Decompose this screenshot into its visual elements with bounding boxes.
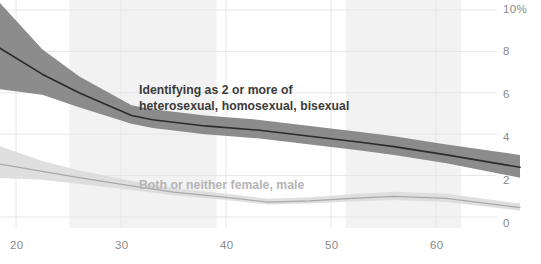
y-tick-label-8: 8 xyxy=(503,45,510,57)
series-annotation-primary: Identifying as 2 or more of heterosexual… xyxy=(139,83,349,114)
y-tick-label-6: 6 xyxy=(503,88,510,100)
series-annotation-secondary: Both or neither female, male xyxy=(139,178,304,194)
chart-plot-svg xyxy=(0,0,541,264)
y-tick-label-0: 0 xyxy=(503,217,510,229)
y-tick-label-10: 10% xyxy=(503,3,527,15)
x-tick-label-60: 60 xyxy=(430,239,443,251)
x-tick-label-50: 50 xyxy=(325,239,338,251)
chart-container: 10% 8 6 4 2 0 20 30 40 50 60 Identifying… xyxy=(0,0,541,264)
y-tick-label-4: 4 xyxy=(503,131,510,143)
x-tick-label-20: 20 xyxy=(10,239,23,251)
x-tick-label-30: 30 xyxy=(115,239,128,251)
x-tick-label-40: 40 xyxy=(220,239,233,251)
series-annotation-primary-line2: heterosexual, homosexual, bisexual xyxy=(139,99,349,115)
series-annotation-primary-line1: Identifying as 2 or more of xyxy=(139,83,349,99)
series-annotation-secondary-line1: Both or neither female, male xyxy=(139,178,304,194)
y-tick-label-2: 2 xyxy=(503,174,510,186)
